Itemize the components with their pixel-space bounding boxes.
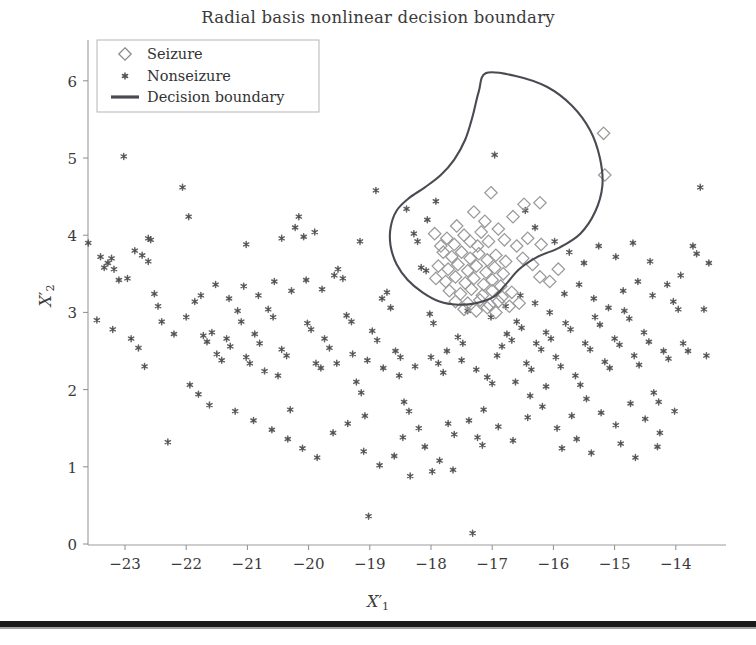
nonseizure-point-core <box>112 328 115 331</box>
nonseizure-point-core <box>420 266 423 269</box>
nonseizure-point-core <box>667 357 670 360</box>
nonseizure-point-core <box>593 297 596 300</box>
nonseizure-point-core <box>153 293 156 296</box>
seizure-point <box>480 266 492 278</box>
nonseizure-point-core <box>677 308 680 311</box>
y-tick-label: 4 <box>67 227 77 245</box>
nonseizure-point-core <box>375 189 378 192</box>
nonseizure-point-core <box>574 374 577 377</box>
nonseizure-point-core <box>263 370 266 373</box>
nonseizure-point-core <box>351 353 354 356</box>
y-tick-label: 5 <box>67 150 77 168</box>
nonseizure-point-core <box>149 239 152 242</box>
nonseizure-point-core <box>290 290 293 293</box>
nonseizure-point-core <box>638 364 641 367</box>
nonseizure-point-core <box>187 215 190 218</box>
nonseizure-point-core <box>629 402 632 405</box>
nonseizure-point-core <box>197 393 200 396</box>
nonseizure-point-core <box>167 441 170 444</box>
seizure-point <box>552 263 564 275</box>
seizure-point <box>458 229 470 241</box>
nonseizure-point-core <box>506 333 509 336</box>
nonseizure-point-core <box>408 410 411 413</box>
nonseizure-point-core <box>273 280 276 283</box>
y-tick-label: 0 <box>67 536 77 554</box>
seizure-point <box>435 240 447 252</box>
nonseizure-point-core <box>228 297 231 300</box>
nonseizure-point-core <box>578 283 581 286</box>
nonseizure-point-core <box>272 316 275 319</box>
nonseizure-point-core <box>118 279 121 282</box>
nonseizure-point-core <box>648 340 651 343</box>
x-tick-label: −23 <box>109 555 141 573</box>
nonseizure-point-core <box>289 408 292 411</box>
nonseizure-point-core <box>559 365 562 368</box>
nonseizure-point-core <box>594 316 597 319</box>
nonseizure-point-core <box>328 347 331 350</box>
nonseizure-point-core <box>460 359 463 362</box>
nonseizure-point-core <box>615 256 618 259</box>
nonseizure-point-core <box>708 262 711 265</box>
x-tick-label: −19 <box>354 555 386 573</box>
x-tick-label: −14 <box>660 555 692 573</box>
nonseizure-point-core <box>564 322 567 325</box>
nonseizure-point-core <box>345 314 348 317</box>
nonseizure-point-core <box>103 266 106 269</box>
nonseizure-point-core <box>659 432 662 435</box>
x-tick-label: −22 <box>170 555 202 573</box>
nonseizure-point-core <box>496 354 499 357</box>
seizure-point <box>490 249 502 261</box>
nonseizure-point-core <box>435 200 438 203</box>
nonseizure-point-core <box>267 308 270 311</box>
nonseizure-point-core <box>271 428 274 431</box>
nonseizure-point-core <box>637 280 640 283</box>
nonseizure-point-core <box>258 342 261 345</box>
nonseizure-point-core <box>481 444 484 447</box>
nonseizure-point-core <box>298 215 301 218</box>
nonseizure-point-core <box>703 308 706 311</box>
nonseizure-point-core <box>462 342 465 345</box>
nonseizure-point-core <box>430 356 433 359</box>
nonseizure-point-core <box>632 242 635 245</box>
nonseizure-point-core <box>302 235 305 238</box>
nonseizure-point-core <box>682 342 685 345</box>
nonseizure-point-core <box>486 376 489 379</box>
y-tick-label: 2 <box>67 382 77 400</box>
nonseizure-point-core <box>242 285 245 288</box>
nonseizure-point-core <box>211 331 214 334</box>
nonseizure-point-core <box>512 439 515 442</box>
nonseizure-point-core <box>545 385 548 388</box>
nonseizure-point-core <box>515 320 518 323</box>
nonseizure-point-core <box>386 291 389 294</box>
nonseizure-point-core <box>482 408 485 411</box>
nonseizure-point-core <box>619 442 622 445</box>
nonseizure-point-core <box>429 313 432 316</box>
nonseizure-point-core <box>447 422 450 425</box>
nonseizure-point-core <box>398 374 401 377</box>
nonseizure-point-core <box>529 395 532 398</box>
axes-group: −23−22−21−20−19−18−17−16−15−140123456 <box>67 40 726 573</box>
nonseizure-point-core <box>130 337 133 340</box>
nonseizure-point-core <box>476 436 479 439</box>
seizure-point <box>479 215 491 227</box>
nonseizure-point-core <box>157 305 160 308</box>
nonseizure-point-core <box>491 382 494 385</box>
nonseizure-point-core <box>535 342 538 345</box>
seizure-point <box>534 197 546 209</box>
nonseizure-point-core <box>613 337 616 340</box>
nonseizure-point-core <box>332 432 335 435</box>
nonseizure-point-core <box>653 391 656 394</box>
nonseizure-point-core <box>541 405 544 408</box>
nonseizure-point-core <box>555 356 558 359</box>
nonseizure-point-core <box>236 310 239 313</box>
seizure-point <box>464 235 476 247</box>
nonseizure-point-core <box>425 269 428 272</box>
nonseizure-point-core <box>294 226 297 229</box>
nonseizure-point-core <box>200 294 203 297</box>
nonseizure-point-core <box>280 237 283 240</box>
nonseizure-point-core <box>453 433 456 436</box>
nonseizure-point-core <box>497 425 500 428</box>
nonseizure-point-core <box>418 427 421 430</box>
nonseizure-point-core <box>550 337 553 340</box>
scatter-plot-svg: −23−22−21−20−19−18−17−16−15−140123456Sei… <box>0 0 756 600</box>
